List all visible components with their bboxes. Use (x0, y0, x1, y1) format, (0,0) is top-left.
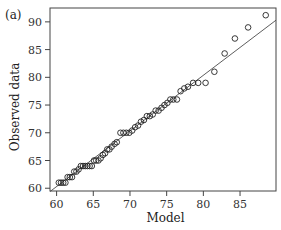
y-tick-label: 90 (28, 16, 42, 29)
x-tick-label: 70 (123, 198, 137, 211)
y-tick-label: 75 (28, 99, 42, 112)
x-tick-label: 85 (233, 198, 247, 211)
x-tick-label: 75 (160, 198, 174, 211)
scatter-chart: 606570758085 60657075808590 (0, 0, 281, 230)
data-point (232, 36, 238, 42)
x-tick-label: 65 (86, 198, 100, 211)
x-tick-label: 60 (50, 198, 64, 211)
y-tick-label: 80 (28, 71, 42, 84)
data-point (263, 12, 269, 18)
data-point (203, 80, 209, 86)
x-axis-label: Model (0, 211, 281, 225)
y-tick-label: 60 (28, 182, 42, 195)
data-point (222, 51, 228, 57)
y-tick-label: 70 (28, 127, 42, 140)
data-point (174, 97, 180, 103)
x-axis-ticks: 606570758085 (50, 191, 247, 211)
x-tick-label: 80 (196, 198, 210, 211)
y-axis-ticks: 60657075808590 (28, 16, 50, 195)
panel-label: (a) (5, 8, 22, 22)
y-axis-label: Observed data (8, 62, 22, 152)
data-point (212, 69, 218, 75)
y-tick-label: 65 (28, 155, 42, 168)
y-tick-label: 85 (28, 44, 42, 57)
data-points (56, 12, 269, 185)
data-point (245, 25, 251, 31)
